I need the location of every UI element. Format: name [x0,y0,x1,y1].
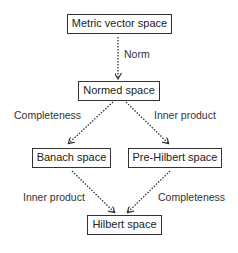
edge-label-completeness-left: Completeness [14,109,81,121]
node-pre-hilbert-space: Pre-Hilbert space [128,148,222,168]
node-banach-space: Banach space [32,148,111,168]
edge-label-norm: Norm [124,48,150,60]
node-hilbert-space: Hilbert space [87,215,162,235]
edge-label-inner-product-right: Inner product [154,109,216,121]
node-metric-vector-space: Metric vector space [67,14,172,34]
edge-label-inner-product-left: Inner product [23,191,85,203]
node-normed-space: Normed space [78,81,160,101]
edge-label-completeness-right: Completeness [158,191,225,203]
